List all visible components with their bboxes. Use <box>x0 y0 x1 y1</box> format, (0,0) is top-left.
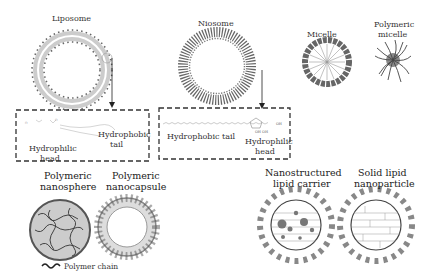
nlc-label-1: Nanostructured <box>265 167 342 178</box>
niosome-label: Niosome <box>198 19 234 28</box>
svg-text:OH OH: OH OH <box>255 130 268 134</box>
nanocapsule-label-2: nanocapsule <box>106 181 166 192</box>
polymeric-micelle-label-1: Polymeric <box>374 20 414 29</box>
svg-text:OH: OH <box>276 122 282 126</box>
polymer-chain-icon <box>42 264 60 268</box>
liposome-label: Liposome <box>52 14 91 23</box>
nanosphere-graphic <box>30 200 90 260</box>
niosome-graphic <box>183 32 265 109</box>
svg-text:O: O <box>55 118 58 122</box>
liposome-graphic <box>32 30 115 110</box>
sln-label-1: Solid lipid <box>358 167 407 178</box>
liposome-hydrophobic-label-1: Hydrophobic <box>98 130 151 139</box>
nanosphere-label-1: Polymeric <box>44 170 92 181</box>
polymeric-micelle-graphic <box>375 40 411 82</box>
micelle-label: Micelle <box>307 30 337 39</box>
micelle-graphic <box>305 40 349 84</box>
liposome-hydrophilic-label-2: head <box>40 154 60 163</box>
niosome-hydrophilic-label-2: head <box>255 147 275 156</box>
nanocapsule-graphic <box>98 198 156 256</box>
liposome-hydrophilic-label-1: Hydrophilic <box>29 144 77 153</box>
nanosphere-label-2: nanosphere <box>40 181 96 192</box>
niosome-hydrophobic-label: Hydrophobic tail <box>167 132 235 141</box>
sln-graphic <box>340 189 412 261</box>
polymeric-micelle-label-2: micelle <box>378 30 407 39</box>
nanocapsule-label-1: Polymeric <box>112 170 160 181</box>
sln-label-2: nanoparticle <box>354 178 415 189</box>
niosome-hydrophilic-label-1: Hydrophilic <box>245 137 293 146</box>
polymer-chain-legend-label: Polymer chain <box>64 262 118 271</box>
nlc-graphic <box>260 189 332 261</box>
liposome-hydrophobic-label-2: tail <box>110 140 123 149</box>
nlc-label-2: lipid carrier <box>273 178 331 189</box>
svg-text:O: O <box>25 121 28 125</box>
